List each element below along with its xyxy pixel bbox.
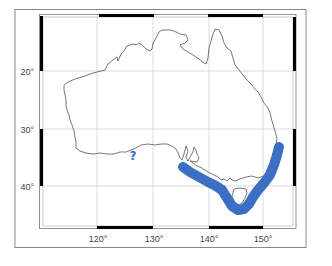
- frame-top-seg-140-150: [208, 14, 263, 17]
- lat-label-30: 30°: [20, 125, 34, 135]
- australia-coastline: [64, 29, 277, 181]
- frame-bottom-seg-120-130: [97, 226, 153, 229]
- lon-label-120: 120°: [89, 234, 108, 244]
- frame-top-seg-120-130: [99, 14, 154, 17]
- lon-label-130: 130°: [145, 234, 164, 244]
- frame-right-seg-30-40: [293, 129, 296, 186]
- frame-left-seg-30-40: [40, 129, 43, 186]
- frame-bottom-seg-140-150: [209, 226, 263, 229]
- lat-label-40: 40°: [20, 182, 34, 192]
- frame-right-seg-north: [293, 17, 296, 71]
- lon-label-140: 140°: [200, 234, 219, 244]
- outer-border: [15, 10, 306, 248]
- frame-left-seg-north: [40, 16, 43, 71]
- map-figure: ? 20° 30° 40° 120° 130° 140° 150°: [0, 0, 332, 266]
- question-mark-annotation: ?: [130, 149, 137, 163]
- lon-label-150: 150°: [254, 234, 273, 244]
- lat-label-20: 20°: [20, 67, 34, 77]
